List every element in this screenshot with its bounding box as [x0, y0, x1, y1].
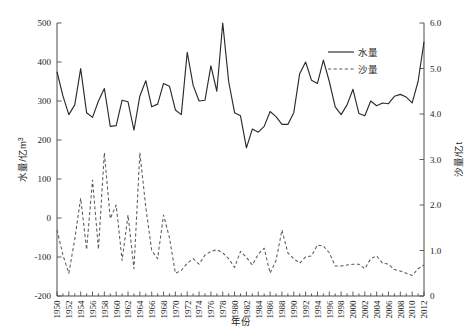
legend-label-water: 水量 [358, 47, 378, 58]
left-axis-tick-label: 0 [47, 213, 52, 223]
x-axis-tick-label: 1972 [183, 301, 193, 319]
right-axis-tick-label: 5.0 [430, 64, 442, 74]
x-axis-tick-label: 1998 [336, 300, 346, 319]
x-axis-tick-label: 1974 [194, 300, 204, 319]
x-axis-tick-label: 1992 [301, 301, 311, 319]
x-axis-tick-label: 1952 [64, 301, 74, 319]
chart-figure: 5004003002001000-100-2006.05.04.03.02.01… [0, 0, 476, 328]
x-axis-tick-label: 1970 [171, 300, 181, 319]
left-axis-tick-label: -100 [35, 252, 52, 262]
x-axis-tick-label: 1988 [277, 300, 287, 319]
x-axis-title: 年份 [231, 316, 251, 327]
left-axis-tick-label: 300 [38, 96, 52, 106]
x-axis-tick-label: 1976 [206, 300, 216, 319]
y2-axis-title: 沙量/亿t [453, 142, 464, 178]
right-axis-tick-label: 6.0 [430, 18, 442, 28]
right-axis-tick-label: 3.0 [430, 155, 442, 165]
x-axis-tick-label: 2002 [360, 301, 370, 319]
left-axis-tick-label: 100 [38, 174, 52, 184]
x-axis-tick-label: 1986 [265, 300, 275, 319]
x-axis-tick-label: 1954 [76, 300, 86, 319]
right-axis-tick-label: 0 [430, 291, 435, 301]
x-axis-tick-label: 2006 [384, 300, 394, 319]
chart-svg: 5004003002001000-100-2006.05.04.03.02.01… [0, 0, 476, 328]
legend-label-sediment: 沙量 [358, 64, 378, 75]
x-axis-tick-label: 1958 [100, 300, 110, 319]
left-axis-tick-label: 400 [38, 57, 52, 67]
x-axis-tick-label: 1962 [123, 301, 133, 319]
x-axis-tick-label: 1978 [218, 300, 228, 319]
x-axis-tick-label: 2000 [348, 300, 358, 319]
x-axis-tick-label: 1984 [254, 300, 264, 319]
x-axis-tick-label: 1956 [88, 300, 98, 319]
series-line-water [57, 23, 424, 148]
x-axis-tick-label: 1960 [111, 300, 121, 319]
x-axis-tick-label: 2012 [419, 301, 429, 319]
left-axis-tick-label: 500 [38, 18, 52, 28]
x-axis-tick-label: 1968 [159, 300, 169, 319]
x-axis-tick-label: 1990 [289, 300, 299, 319]
x-axis-tick-label: 2008 [396, 300, 406, 319]
y-axis-title: 水量/亿m3 [17, 137, 28, 182]
left-axis-tick-label: -200 [35, 291, 52, 301]
x-axis-tick-label: 1950 [52, 300, 62, 319]
right-axis-tick-label: 4.0 [430, 109, 442, 119]
x-axis-tick-label: 2010 [407, 300, 417, 319]
x-axis-tick-label: 1994 [313, 300, 323, 319]
right-axis-tick-label: 2.0 [430, 200, 442, 210]
series-line-sediment [57, 153, 424, 276]
x-axis-tick-label: 1966 [147, 300, 157, 319]
x-axis-tick-label: 1964 [135, 300, 145, 319]
left-axis-tick-label: 200 [38, 135, 52, 145]
right-axis-tick-label: 1.0 [430, 246, 442, 256]
x-axis-tick-label: 2004 [372, 300, 382, 319]
x-axis-tick-label: 1996 [325, 300, 335, 319]
